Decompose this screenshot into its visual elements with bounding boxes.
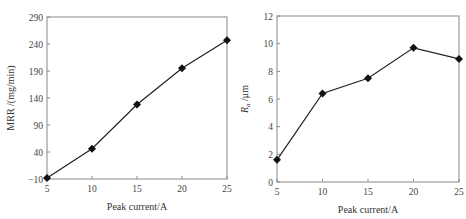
y-axis-title: Ra /μm — [239, 85, 252, 114]
y-tick-label: 140 — [29, 94, 44, 104]
x-tick-label: 15 — [132, 184, 142, 194]
y-tick-label: 10 — [264, 39, 274, 49]
y-tick-label: 0 — [268, 178, 273, 188]
y-tick-label: −10 — [28, 175, 43, 185]
data-point-marker — [43, 174, 51, 182]
data-point-marker — [273, 156, 281, 164]
y-tick-label: 190 — [29, 67, 44, 77]
x-tick-label: 10 — [87, 184, 97, 194]
y-axis-title: MRR /(mg/min) — [5, 65, 17, 130]
series-line — [47, 40, 227, 178]
x-tick-label: 5 — [45, 184, 50, 194]
x-tick-label: 10 — [318, 187, 328, 197]
series-line — [277, 48, 459, 160]
x-tick-label: 20 — [409, 187, 419, 197]
data-point-marker — [319, 89, 327, 97]
x-axis-title: Peak current/A — [338, 204, 399, 215]
y-tick-label: 4 — [268, 122, 273, 132]
x-tick-label: 20 — [177, 184, 187, 194]
data-point-marker — [410, 44, 418, 52]
x-tick-label: 25 — [222, 184, 232, 194]
data-point-marker — [455, 55, 463, 63]
y-tick-label: 40 — [34, 148, 44, 158]
mrr-chart: −104090140190240290510152025Peak current… — [5, 13, 232, 213]
x-tick-label: 25 — [454, 187, 464, 197]
y-tick-label: 240 — [29, 40, 44, 50]
data-point-marker — [223, 36, 231, 44]
plot-frame — [277, 16, 459, 182]
plot-frame — [47, 17, 227, 179]
data-point-marker — [364, 74, 372, 82]
figure: −104090140190240290510152025Peak current… — [0, 0, 466, 219]
y-tick-label: 8 — [268, 67, 273, 77]
roughness-chart: 024681012510152025Peak current/ARa /μm — [239, 12, 464, 216]
y-tick-label: 2 — [268, 150, 273, 160]
x-tick-label: 5 — [275, 187, 280, 197]
x-tick-label: 15 — [363, 187, 373, 197]
y-tick-label: 290 — [29, 13, 44, 23]
y-tick-label: 12 — [264, 12, 274, 22]
y-tick-label: 90 — [34, 121, 44, 131]
x-axis-title: Peak current/A — [107, 201, 168, 212]
y-tick-label: 6 — [268, 95, 273, 105]
